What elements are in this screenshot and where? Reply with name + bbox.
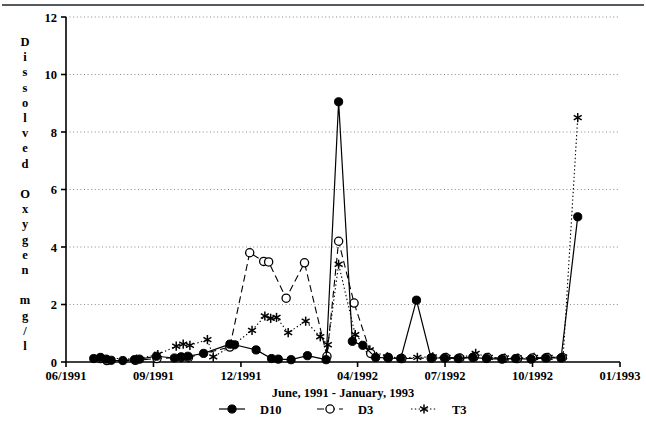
y-axis-label-letter: O [20, 187, 30, 201]
grid-lines [66, 17, 620, 305]
x-tick-label: 10/1992 [512, 369, 553, 383]
legend-label: D10 [260, 403, 282, 417]
marker-asterisk [209, 352, 217, 361]
marker-open-circle [300, 259, 308, 267]
marker-filled-circle [184, 352, 192, 360]
y-axis-ticks: 024681012 [45, 11, 67, 370]
y-axis-label-letter: o [22, 96, 28, 110]
y-axis-label-letter: i [23, 50, 27, 64]
x-tick-label: 04/1992 [337, 369, 378, 383]
marker-filled-circle [230, 341, 238, 349]
y-axis-label-letter: s [23, 81, 28, 95]
legend-item-t3[interactable]: T3 [411, 403, 467, 417]
legend-item-d3[interactable]: D3 [317, 403, 373, 417]
x-tick-label: 01/1993 [600, 369, 641, 383]
x-axis-title-text: June, 1991 - January, 1993 [272, 386, 414, 400]
marker-filled-circle [287, 356, 295, 364]
marker-filled-circle [119, 356, 127, 364]
y-axis-label-letter: / [22, 324, 27, 338]
marker-filled-circle [252, 346, 260, 354]
marker-open-circle [350, 299, 358, 307]
marker-filled-circle [274, 355, 282, 363]
data-series-layer [90, 98, 582, 365]
marker-filled-circle [469, 353, 477, 361]
y-axis-label-letter: x [22, 202, 29, 216]
y-axis-label-letter: g [22, 233, 29, 247]
x-axis-title: June, 1991 - January, 1993 [272, 386, 414, 400]
y-tick-label: 2 [51, 298, 57, 312]
y-axis-label-letter: d [22, 157, 29, 171]
marker-filled-circle [303, 352, 311, 360]
marker-asterisk [172, 342, 180, 351]
top-divider-rule [2, 4, 644, 6]
marker-filled-circle [335, 98, 343, 106]
y-tick-label: 12 [45, 11, 58, 25]
marker-filled-circle [542, 354, 550, 362]
dissolved-oxygen-line-chart: 024681012 06/199109/199112/199104/199207… [0, 0, 646, 431]
marker-filled-circle [200, 349, 208, 357]
marker-filled-circle [498, 355, 506, 363]
series-line [94, 102, 578, 361]
y-axis-label-letter: l [23, 339, 27, 353]
marker-open-circle [282, 294, 290, 302]
marker-filled-circle [359, 341, 367, 349]
marker-filled-circle [454, 354, 462, 362]
marker-asterisk [203, 335, 211, 344]
x-tick-label: 09/1991 [133, 369, 174, 383]
marker-filled-circle [348, 337, 356, 345]
y-axis-label-letter: y [22, 217, 29, 231]
legend-label: D3 [358, 403, 373, 417]
legend-item-d10[interactable]: D10 [219, 403, 282, 417]
marker-asterisk [574, 113, 582, 122]
marker-filled-circle [557, 354, 565, 362]
marker-filled-circle [384, 354, 392, 362]
y-axis-label-letter: s [23, 65, 28, 79]
marker-filled-circle [427, 354, 435, 362]
cut-off-caption [6, 420, 9, 430]
figure-container: 024681012 06/199109/199112/199104/199207… [0, 0, 646, 431]
y-axis-label-letter: e [22, 248, 28, 262]
marker-asterisk [413, 353, 421, 362]
y-tick-label: 4 [51, 241, 58, 255]
chart-legend: D10D3T3 [219, 403, 467, 417]
marker-open-circle [265, 258, 273, 266]
x-tick-label: 07/1992 [425, 369, 466, 383]
marker-filled-circle [512, 354, 520, 362]
marker-filled-circle [372, 353, 380, 361]
marker-open-circle [335, 237, 343, 245]
y-axis-label-letter: l [23, 111, 27, 125]
y-axis-label-letter: v [22, 126, 29, 140]
y-axis-label-letter: D [20, 35, 29, 49]
marker-filled-circle [397, 354, 405, 362]
y-axis-label-letter: g [22, 309, 29, 323]
legend-label: T3 [452, 403, 467, 417]
y-tick-label: 8 [51, 126, 57, 140]
marker-filled-circle [527, 355, 535, 363]
marker-filled-circle [228, 405, 236, 413]
y-axis-label-letter: e [22, 141, 28, 155]
y-tick-label: 10 [45, 68, 58, 82]
marker-open-circle [246, 249, 254, 257]
marker-filled-circle [482, 354, 490, 362]
marker-filled-circle [135, 355, 143, 363]
marker-filled-circle [322, 356, 330, 364]
y-axis-label-letter: n [22, 263, 29, 277]
series-d10 [90, 98, 582, 365]
y-tick-label: 0 [51, 356, 57, 370]
marker-filled-circle [152, 352, 160, 360]
marker-filled-circle [440, 354, 448, 362]
marker-filled-circle [107, 356, 115, 364]
marker-asterisk [302, 317, 310, 326]
y-tick-label: 6 [51, 183, 57, 197]
marker-open-circle [326, 405, 334, 413]
y-axis-label: DissolvedOxygenmg/l [20, 35, 31, 353]
y-axis-label-letter: m [20, 293, 31, 307]
x-tick-label: 06/1991 [46, 369, 87, 383]
marker-filled-circle [574, 213, 582, 221]
x-axis-ticks: 06/199109/199112/199104/199207/199210/19… [46, 362, 641, 383]
x-tick-label: 12/1991 [220, 369, 261, 383]
marker-filled-circle [412, 296, 420, 304]
